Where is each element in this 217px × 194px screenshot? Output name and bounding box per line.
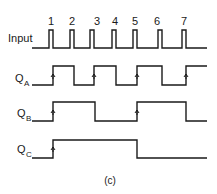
pulse-number-3: 3 xyxy=(94,15,100,27)
waveform-qa xyxy=(32,66,207,85)
svg-text:C: C xyxy=(26,150,32,159)
signal-label-qb: Q B xyxy=(17,107,31,123)
arrow-up-icon xyxy=(92,74,96,79)
waveform-qb xyxy=(32,102,207,121)
arrow-up-icon xyxy=(135,74,139,79)
svg-text:Q: Q xyxy=(15,72,24,84)
signal-label-input: Input xyxy=(8,32,32,44)
svg-text:Q: Q xyxy=(17,107,26,119)
svg-text:Q: Q xyxy=(17,143,26,155)
arrow-up-icon xyxy=(184,74,188,79)
svg-text:B: B xyxy=(26,114,31,123)
pulse-number-5: 5 xyxy=(132,15,138,27)
arrow-up-icon xyxy=(135,110,139,115)
signal-label-qa: Q A xyxy=(15,72,30,88)
arrow-up-icon xyxy=(51,110,55,115)
pulse-number-1: 1 xyxy=(48,15,54,27)
arrow-up-icon xyxy=(51,147,55,152)
signal-label-qc: Q C xyxy=(17,143,32,159)
svg-text:A: A xyxy=(24,79,30,88)
figure-caption: (c) xyxy=(104,175,116,186)
waveform-qc xyxy=(32,140,207,158)
pulse-number-7: 7 xyxy=(181,15,187,27)
pulse-numbers: 1 2 3 4 5 6 7 xyxy=(48,15,187,27)
arrow-up-icon xyxy=(51,74,55,79)
pulse-number-6: 6 xyxy=(154,15,160,27)
timing-diagram: 1 2 3 4 5 6 7 Input Q A Q B Q C xyxy=(0,0,217,194)
pulse-number-4: 4 xyxy=(112,15,118,27)
waveform-input xyxy=(32,30,207,48)
pulse-number-2: 2 xyxy=(69,15,75,27)
